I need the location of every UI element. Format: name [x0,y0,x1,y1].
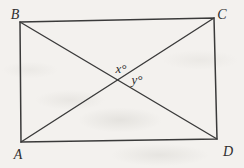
geometry-diagram: B C A D x° y° [0,0,244,168]
vertex-label-c: C [217,7,227,22]
angle-label-x: x° [115,61,127,76]
diagonal-bd [20,22,217,139]
vertex-label-a: A [13,147,23,162]
vertex-label-d: D [222,144,233,159]
rectangle-diagonals-figure: B C A D x° y° [0,0,244,168]
vertex-label-b: B [11,7,20,22]
angle-label-y: y° [130,72,143,87]
